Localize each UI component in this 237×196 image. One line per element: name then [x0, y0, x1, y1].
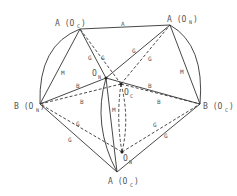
crystal-geometry-diagram: A (OC) A (ON) B (ON) B (OC) A (OC) ON OC… [0, 0, 237, 196]
edge-left-lower [40, 104, 117, 172]
svg-text:A (O: A (O [167, 15, 186, 24]
dashed-c-lowern-arc-1 [119, 84, 122, 152]
svg-text:C: C [77, 23, 80, 29]
svg-text:N: N [36, 107, 39, 113]
svg-text:O: O [124, 88, 129, 97]
svg-text:C: C [225, 107, 228, 113]
center-arc [101, 78, 117, 172]
dashed-lowern-right [122, 104, 200, 152]
center-n-point [105, 77, 108, 80]
edge-label-g7: G [153, 121, 157, 128]
edge-label-b3: B [148, 82, 152, 89]
edge-label-b1: B [76, 82, 80, 89]
label-top-left: A (OC) [55, 19, 86, 29]
label-right: B (OC) [203, 102, 234, 113]
svg-text:B (O: B (O [203, 102, 222, 111]
edge-label-g3: G [132, 47, 136, 54]
label-top-right: A (ON) [167, 15, 198, 25]
edge-label-g8: G [164, 132, 168, 139]
edge-label-g2: G [101, 54, 105, 61]
edge-label-b2: B [80, 98, 84, 105]
edge-label-m-left: M [61, 69, 65, 76]
label-center-n: ON [92, 69, 101, 80]
svg-text:): ) [81, 19, 86, 28]
label-center-c: OC [124, 88, 133, 99]
edge-label-g1: G [88, 54, 92, 61]
svg-text:): ) [134, 177, 139, 186]
edge-center-topright [106, 25, 170, 78]
edge-label-g6: G [68, 136, 72, 143]
svg-text:N: N [98, 74, 101, 80]
svg-text:O: O [123, 154, 128, 163]
edge-label-b4: B [157, 98, 161, 105]
svg-text:): ) [193, 15, 198, 24]
svg-text:C: C [130, 182, 133, 188]
svg-text:N: N [189, 19, 192, 25]
center-c-point [120, 83, 123, 86]
svg-text:O: O [92, 69, 97, 78]
svg-text:C: C [130, 93, 133, 99]
svg-text:): ) [229, 102, 234, 111]
edge-label-m-right: M [180, 68, 184, 75]
label-left: B (ON) [14, 102, 45, 113]
edge-center-left [40, 78, 106, 104]
label-bottom: A (OC) [108, 177, 139, 188]
svg-text:B (O: B (O [14, 102, 33, 111]
edge-left-upper [40, 29, 80, 104]
svg-text:): ) [40, 102, 45, 111]
dashed-c-topright [121, 25, 170, 84]
svg-text:A (O: A (O [108, 177, 127, 186]
edge-label-m-center: M [112, 106, 116, 113]
svg-text:A (O: A (O [55, 19, 74, 28]
edge-label-g4: G [148, 55, 152, 62]
edge-label-top: A [121, 20, 125, 27]
svg-text:N: N [129, 159, 132, 165]
edge-label-g5: G [76, 120, 80, 127]
edge-top [80, 25, 170, 29]
edge-center-bottom [106, 78, 117, 172]
